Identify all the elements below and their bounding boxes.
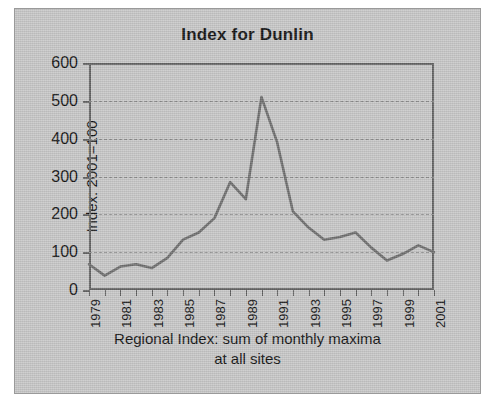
x-axis-caption-line1: Regional Index: sum of monthly maxima — [15, 329, 480, 349]
x-axis-tick — [403, 290, 404, 296]
x-axis-tick — [371, 290, 372, 296]
x-axis-tick — [167, 290, 168, 296]
x-axis-tick — [120, 290, 121, 296]
x-axis-tick — [105, 290, 106, 296]
x-axis-tick — [309, 290, 310, 296]
x-axis-tick-label: 1991 — [276, 299, 291, 328]
x-axis-tick — [277, 290, 278, 296]
x-axis-tick-label: 1979 — [88, 299, 103, 328]
x-axis-tick-label: 2001 — [433, 299, 448, 328]
x-axis-tick — [183, 290, 184, 296]
x-axis-tick — [136, 290, 137, 296]
x-axis-tick-label: 1987 — [213, 299, 228, 328]
x-axis-tick — [262, 290, 263, 296]
x-axis-tick — [89, 290, 90, 296]
chart-figure: Index for Dunlin Index: 2001=100 6005004… — [14, 8, 481, 394]
x-axis-tick-label: 1989 — [244, 299, 259, 328]
y-axis-tick-label: 100 — [51, 243, 78, 261]
x-axis-tick — [418, 290, 419, 296]
x-axis-tick — [246, 290, 247, 296]
x-axis-caption-line2: at all sites — [15, 349, 480, 369]
x-axis-caption: Regional Index: sum of monthly maxima at… — [15, 329, 480, 370]
y-axis-tick-label: 600 — [51, 54, 78, 72]
plot-area: 6005004003002001000 19791981198319851987… — [89, 63, 434, 290]
y-axis-tick-label: 300 — [51, 168, 78, 186]
y-axis-tick-label: 500 — [51, 92, 78, 110]
x-axis-tick — [214, 290, 215, 296]
y-axis-tick-label: 400 — [51, 130, 78, 148]
chart-title: Index for Dunlin — [15, 25, 480, 45]
y-axis-tick-label: 200 — [51, 205, 78, 223]
x-axis-tick-label: 1983 — [150, 299, 165, 328]
x-axis-tick — [340, 290, 341, 296]
x-axis-tick-label: 1981 — [119, 299, 134, 328]
x-axis-tick — [356, 290, 357, 296]
data-series-line — [89, 63, 434, 290]
x-axis-tick — [387, 290, 388, 296]
x-axis-tick-label: 1997 — [370, 299, 385, 328]
x-axis-tick — [293, 290, 294, 296]
y-axis-tick-label: 0 — [69, 281, 78, 299]
x-axis-tick — [434, 290, 435, 296]
x-axis-tick-label: 1985 — [182, 299, 197, 328]
x-axis-tick — [230, 290, 231, 296]
x-axis-tick — [152, 290, 153, 296]
x-axis-tick-label: 1999 — [401, 299, 416, 328]
x-axis-tick-label: 1993 — [307, 299, 322, 328]
x-axis-tick — [324, 290, 325, 296]
x-axis-tick-label: 1995 — [338, 299, 353, 328]
x-axis-tick — [199, 290, 200, 296]
